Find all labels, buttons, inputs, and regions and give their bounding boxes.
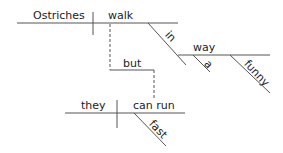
diagram-lines	[0, 0, 283, 153]
subject-they: they	[81, 100, 106, 111]
verb-can-run: can run	[133, 100, 175, 111]
subject-ostriches: Ostriches	[33, 10, 85, 21]
verb-walk: walk	[108, 10, 133, 21]
modifier-in-line	[148, 23, 186, 65]
object-way: way	[193, 42, 215, 53]
conjunction-but: but	[123, 58, 141, 69]
